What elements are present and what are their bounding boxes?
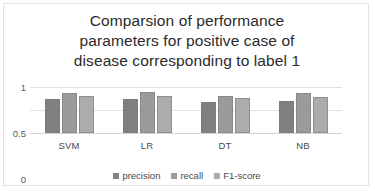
bar-group xyxy=(264,87,342,133)
legend-swatch-icon xyxy=(113,173,119,179)
bar-group-bars xyxy=(186,87,264,133)
bar-dt-f1-score[interactable] xyxy=(235,98,250,133)
legend-label: precision xyxy=(122,170,160,181)
bar-group-bars xyxy=(108,87,186,133)
plot-area: 00.51 xyxy=(30,87,342,133)
x-axis-label-svm: SVM xyxy=(30,140,108,151)
bar-lr-recall[interactable] xyxy=(140,92,155,133)
bar-groups xyxy=(30,87,342,133)
bar-svm-f1-score[interactable] xyxy=(79,96,94,133)
y-axis-tick-label: 1 xyxy=(21,82,26,93)
bar-dt-recall[interactable] xyxy=(218,96,233,133)
legend-item-precision[interactable]: precision xyxy=(113,170,160,181)
legend-item-f1-score[interactable]: F1-score xyxy=(214,170,260,181)
axis-line-baseline: 0 xyxy=(30,133,342,134)
bar-lr-f1-score[interactable] xyxy=(157,96,172,133)
legend-item-recall[interactable]: recall xyxy=(171,170,203,181)
bar-group xyxy=(30,87,108,133)
legend-swatch-icon xyxy=(171,173,177,179)
bar-dt-precision[interactable] xyxy=(201,102,216,133)
bar-group xyxy=(108,87,186,133)
chart-card: Comparsion of performance parameters for… xyxy=(3,3,369,186)
y-axis-tick-label: 0.5 xyxy=(13,128,26,139)
x-axis-label-dt: DT xyxy=(186,140,264,151)
x-axis-label-nb: NB xyxy=(264,140,342,151)
legend-label: F1-score xyxy=(223,170,260,181)
x-axis-labels: SVMLRDTNB xyxy=(30,140,342,151)
chart-legend: precisionrecallF1-score xyxy=(4,170,370,181)
bar-nb-recall[interactable] xyxy=(296,93,311,133)
legend-swatch-icon xyxy=(214,173,220,179)
bar-group-bars xyxy=(264,87,342,133)
bar-nb-precision[interactable] xyxy=(279,101,294,133)
bar-group-bars xyxy=(30,87,108,133)
chart-title: Comparsion of performance parameters for… xyxy=(4,11,370,71)
bar-group xyxy=(186,87,264,133)
bar-lr-precision[interactable] xyxy=(123,99,138,134)
bar-svm-recall[interactable] xyxy=(62,93,77,133)
bar-nb-f1-score[interactable] xyxy=(313,97,328,133)
bar-svm-precision[interactable] xyxy=(45,99,60,134)
legend-label: recall xyxy=(180,170,203,181)
x-axis-label-lr: LR xyxy=(108,140,186,151)
